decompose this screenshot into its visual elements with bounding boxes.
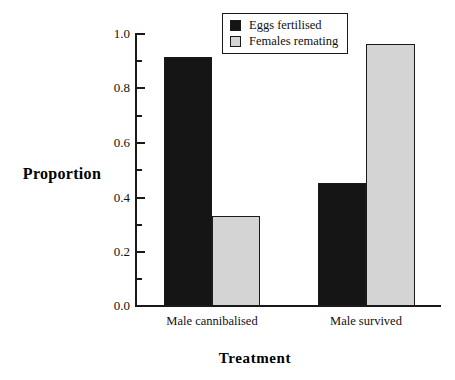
bar-females-remating-male-cannibalised bbox=[212, 216, 260, 306]
legend-item-females-remating: Females remating bbox=[230, 34, 341, 49]
bar-females-remating-male-survived bbox=[366, 44, 415, 306]
legend: Eggs fertilised Females remating bbox=[222, 13, 348, 54]
bar-chart-figure: Proportion 1.0 0.8 0.6 0.4 0.2 0.0 Male … bbox=[0, 0, 455, 380]
bar-eggs-fertilised-male-cannibalised bbox=[164, 57, 212, 306]
legend-swatch-icon-eggs-fertilised bbox=[230, 20, 241, 31]
x-axis-title: Treatment bbox=[175, 350, 335, 367]
legend-label-eggs-fertilised: Eggs fertilised bbox=[249, 19, 322, 32]
bar-eggs-fertilised-male-survived bbox=[318, 183, 366, 306]
category-label-male-survived: Male survived bbox=[316, 314, 416, 329]
category-label-male-cannibalised: Male cannibalised bbox=[152, 314, 272, 329]
legend-label-females-remating: Females remating bbox=[249, 35, 338, 48]
legend-item-eggs-fertilised: Eggs fertilised bbox=[230, 18, 341, 33]
legend-swatch-icon-females-remating bbox=[230, 36, 241, 47]
